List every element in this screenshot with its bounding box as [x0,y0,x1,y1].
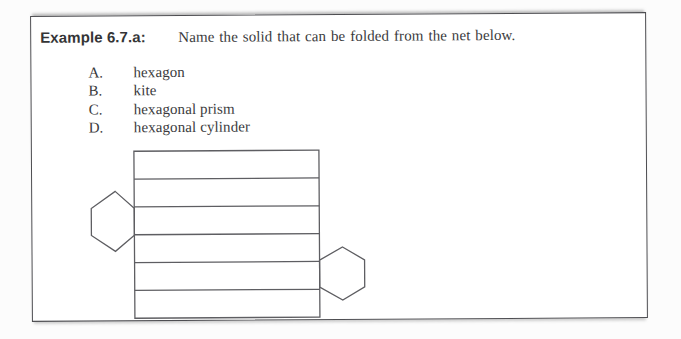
strip-divider-line [135,261,320,262]
example-header: Example 6.7.a: Name the solid that can b… [40,25,637,47]
strip-divider-line [134,178,319,179]
question-text: Name the solid that can be folded from t… [178,27,515,46]
option-c-text: hexagonal prism [134,99,235,118]
example-label: Example 6.7.a: [40,28,178,46]
net-figure [82,142,383,329]
right-hexagon-face [319,247,364,300]
option-b-letter: B. [88,82,133,101]
strip-divider-line [135,289,320,290]
option-c-letter: C. [89,100,134,119]
option-a-text: hexagon [133,63,185,82]
option-a-letter: A. [88,63,133,82]
option-a: A. hexagon [88,63,249,82]
example-box: Example 6.7.a: Name the solid that can b… [30,12,648,322]
option-b: B. kite [88,81,249,100]
option-d: D. hexagonal cylinder [89,118,250,137]
option-b-text: kite [133,82,156,101]
answer-options: A. hexagon B. kite C. hexagonal prism D.… [88,63,250,138]
option-d-text: hexagonal cylinder [134,118,250,137]
option-c: C. hexagonal prism [89,99,250,118]
strip-divider-line [134,234,319,235]
strip-divider-line [134,206,319,207]
scanned-page: Example 6.7.a: Name the solid that can b… [0,0,681,339]
option-d-letter: D. [89,118,134,137]
left-hexagon-face [91,191,134,251]
